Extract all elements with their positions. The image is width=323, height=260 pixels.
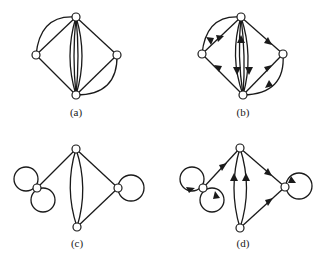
- node-c-right: [114, 184, 122, 192]
- edge-bottom-top-1: [234, 148, 240, 228]
- node-a-bottom: [72, 91, 80, 99]
- node-d-bottom: [236, 224, 244, 232]
- edge-right-loop: [286, 173, 312, 199]
- panel-a-graph: (a): [32, 13, 121, 119]
- panel-c-label: (c): [71, 237, 84, 250]
- node-c-left: [33, 184, 41, 192]
- node-a-right: [113, 51, 121, 59]
- panel-a-label: (a): [70, 106, 83, 119]
- node-b-top: [237, 13, 245, 21]
- arrow-icon: [245, 67, 253, 75]
- node-d-left: [199, 184, 207, 192]
- edge-bottom-top-2: [240, 148, 247, 228]
- node-b-right: [279, 50, 287, 58]
- arrow-icon: [214, 65, 222, 72]
- node-d-top: [236, 144, 244, 152]
- node-d-right: [281, 183, 289, 191]
- edge-top-bottom-2: [74, 17, 76, 95]
- edge-top-bottom-3: [76, 17, 78, 95]
- edge-top-bottom-2: [76, 149, 83, 227]
- panel-c-graph: (c): [14, 145, 144, 250]
- node-c-bottom: [73, 223, 81, 231]
- node-a-top: [72, 13, 80, 21]
- panel-d-label: (d): [237, 237, 250, 250]
- node-c-top: [72, 145, 80, 153]
- arrow-icon: [242, 173, 250, 181]
- node-b-bottom: [239, 91, 247, 99]
- edge-top-bottom-1: [70, 149, 77, 227]
- panel-b-label: (b): [237, 106, 250, 119]
- panel-b-graph: (b): [198, 13, 287, 119]
- panel-d-graph: (d): [180, 144, 312, 250]
- node-b-left: [198, 50, 206, 58]
- arrow-icon: [264, 65, 272, 72]
- arrow-icon: [216, 35, 224, 42]
- arrow-icon: [230, 173, 238, 181]
- arrow-icon: [213, 191, 220, 199]
- graph-figure: (a) (b): [0, 0, 323, 260]
- node-a-left: [32, 51, 40, 59]
